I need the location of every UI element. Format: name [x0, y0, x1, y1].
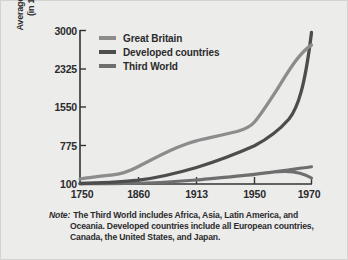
chart-legend: Great Britain Developed countries Third … — [99, 31, 219, 73]
legend-swatch-icon-great-britain — [99, 36, 116, 40]
legend-swatch-icon-third-world — [99, 64, 116, 68]
chart-note: Note:The Third World includes Africa, As… — [49, 210, 317, 244]
chart-note-text: The Third World includes Africa, Asia, L… — [70, 210, 314, 242]
y-axis-title-line-2: (in 1960 U.S. dollars) — [26, 0, 37, 49]
x-tick-label-2: 1913 — [185, 188, 208, 200]
legend-label-great-britain: Great Britain — [123, 33, 182, 44]
y-tick-label-3: 2325 — [41, 63, 77, 75]
legend-label-third-world: Third World — [123, 61, 178, 72]
legend-item-third-world: Third World — [99, 59, 219, 73]
y-tick-label-4: 3000 — [41, 25, 77, 37]
chart-note-label: Note: — [49, 210, 70, 220]
y-axis-title: Average income per person (in 1960 U.S. … — [15, 0, 35, 49]
chart-note-body: Note:The Third World includes Africa, As… — [49, 210, 317, 244]
legend-swatch-icon-developed-countries — [99, 50, 116, 54]
chart-plot-area: 100 775 1550 2325 3000 1750 1860 1913 19… — [1, 1, 348, 206]
x-tick-label-1: 1860 — [127, 188, 150, 200]
legend-item-great-britain: Great Britain — [99, 31, 219, 45]
y-tick-label-1: 775 — [41, 140, 77, 152]
y-tick-label-2: 1550 — [41, 101, 77, 113]
x-tick-label-3: 1950 — [243, 188, 266, 200]
y-axis-title-line-1: Average income per person — [15, 0, 26, 49]
legend-item-developed-countries: Developed countries — [99, 45, 219, 59]
x-tick-label-0: 1750 — [71, 188, 94, 200]
legend-label-developed-countries: Developed countries — [123, 47, 219, 58]
figure-container: 100 775 1550 2325 3000 1750 1860 1913 19… — [0, 0, 348, 260]
y-axis-ticks — [80, 31, 86, 146]
x-tick-label-4: 1970 — [298, 188, 321, 200]
